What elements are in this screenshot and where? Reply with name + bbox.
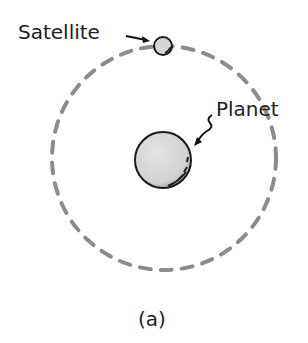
planet-label: Planet [216,99,279,119]
caption: (a) [138,309,166,329]
satellite-label: Satellite [18,22,100,42]
planet-arrow-icon [194,115,212,146]
planet [135,132,191,188]
satellite-arrow-icon [126,36,150,43]
orbit-diagram [0,0,308,343]
satellite [154,37,172,55]
